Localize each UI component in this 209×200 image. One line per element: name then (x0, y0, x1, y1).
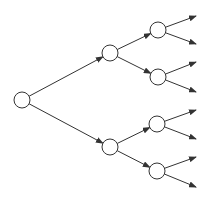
edge-arrow-root-b (29, 104, 103, 143)
tree-node-root (14, 92, 30, 108)
leaf-arrow-ba-5 (164, 127, 196, 139)
tree-node-aa (150, 22, 166, 38)
leaf-arrow-ab-3 (165, 80, 196, 92)
edge-arrow-root-a (29, 57, 103, 96)
tree-node-a (102, 45, 118, 61)
tree-svg (0, 0, 209, 200)
tree-node-b (102, 139, 118, 155)
leaf-arrow-ba-4 (165, 110, 196, 121)
open-arrows-layer (164, 16, 196, 187)
leaf-arrow-bb-7 (164, 174, 196, 187)
tree-node-ab (150, 69, 166, 85)
leaf-arrow-ab-2 (165, 62, 196, 74)
nodes-layer (14, 22, 166, 179)
leaf-arrow-aa-0 (166, 16, 196, 27)
edge-arrow-a-ab (117, 57, 151, 74)
edge-arrow-b-bb (117, 151, 150, 168)
tree-node-bb (149, 163, 165, 179)
tree-node-ba (149, 116, 165, 132)
leaf-arrow-aa-1 (166, 33, 196, 44)
leaf-arrow-bb-6 (165, 157, 196, 168)
tree-diagram (0, 0, 209, 200)
edges-layer (29, 33, 151, 167)
edge-arrow-b-ba (117, 128, 150, 144)
edge-arrow-a-aa (117, 33, 151, 49)
